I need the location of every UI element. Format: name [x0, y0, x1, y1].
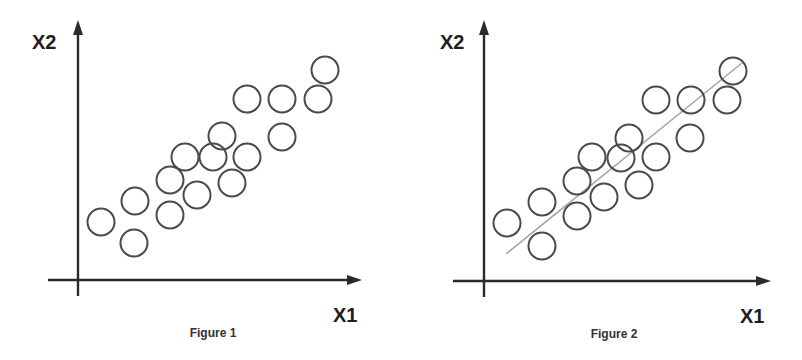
data-point-circle — [312, 57, 339, 84]
data-point-circle — [714, 87, 741, 114]
data-point-circle — [591, 184, 618, 211]
data-point-circle — [172, 144, 199, 171]
data-point-circle — [564, 168, 591, 195]
data-point-circle — [219, 170, 246, 197]
y-axis-arrowhead-icon — [479, 20, 489, 35]
data-point-circle — [678, 87, 705, 114]
data-point-circle — [529, 189, 556, 216]
data-point-circle — [157, 167, 184, 194]
data-point-circle — [529, 233, 556, 260]
data-point-circle — [579, 144, 606, 171]
figure-2: X2 X1 Figure 2 — [440, 20, 771, 341]
x-axis-arrowhead-icon — [347, 275, 362, 285]
data-point-circle — [305, 86, 332, 113]
data-point-circle — [269, 86, 296, 113]
data-point-circle — [643, 87, 670, 114]
figure-1: X2 X1 Figure 1 — [32, 20, 362, 340]
data-point-circle — [184, 182, 211, 209]
x-axis-arrowhead-icon — [756, 276, 771, 286]
data-point-circle — [626, 172, 653, 199]
data-points — [494, 58, 747, 260]
data-point-circle — [121, 230, 148, 257]
data-point-circle — [234, 144, 261, 171]
data-point-circle — [677, 125, 704, 152]
data-points — [88, 57, 339, 257]
data-point-circle — [494, 210, 521, 237]
x-axis-label: X1 — [333, 304, 357, 326]
data-point-circle — [643, 144, 670, 171]
data-point-circle — [269, 124, 296, 151]
data-point-circle — [157, 202, 184, 229]
y-axis-label: X2 — [440, 31, 464, 53]
data-point-circle — [88, 209, 115, 236]
data-point-circle — [122, 188, 149, 215]
figures-canvas: X2 X1 Figure 1 X2 X1 Figure 2 — [0, 0, 802, 360]
regression-fit-line — [506, 63, 742, 254]
figure-caption: Figure 2 — [591, 327, 638, 341]
y-axis-arrowhead-icon — [73, 20, 83, 35]
data-point-circle — [234, 86, 261, 113]
x-axis-label: X1 — [740, 305, 764, 327]
data-point-circle — [564, 203, 591, 230]
figure-caption: Figure 1 — [190, 326, 237, 340]
data-point-circle — [209, 123, 236, 150]
data-point-circle — [200, 144, 227, 171]
y-axis-label: X2 — [32, 31, 56, 53]
